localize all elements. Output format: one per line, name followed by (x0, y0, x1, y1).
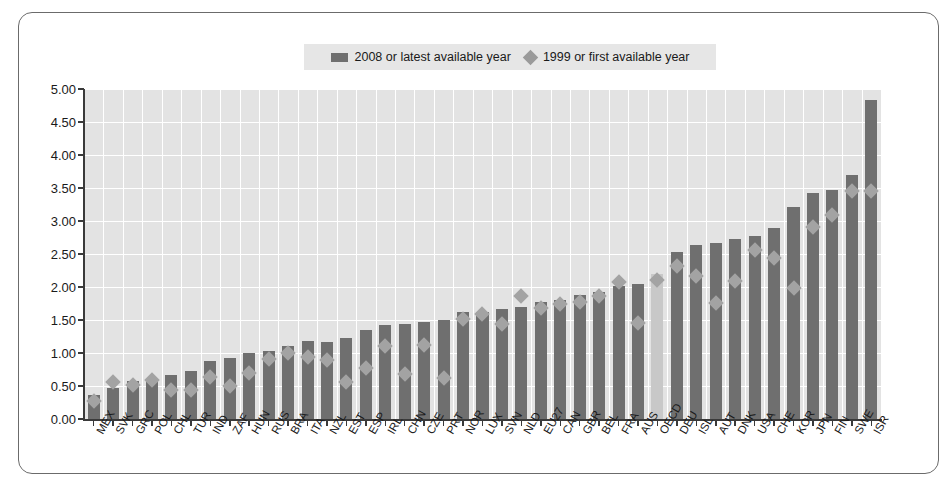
bar-can[interactable] (554, 300, 566, 419)
y-axis-tick-mark (78, 286, 84, 288)
y-axis-tick-label: 3.50 (30, 181, 76, 196)
bar-aut[interactable] (710, 243, 722, 419)
x-axis-tick-mark (676, 420, 678, 426)
x-axis-tick-mark (598, 420, 600, 426)
bar-hun[interactable] (243, 353, 255, 419)
bar-swatch-icon (331, 53, 348, 62)
bar-kor[interactable] (787, 207, 799, 419)
legend-label-diamonds: 1999 or first available year (543, 50, 690, 64)
bar-group[interactable] (224, 89, 236, 419)
x-axis-tick-mark (423, 420, 425, 426)
x-axis-tick-mark (210, 420, 212, 426)
bar-nor[interactable] (457, 312, 469, 419)
chart-legend: 2008 or latest available year 1999 or fi… (304, 44, 716, 70)
x-axis-tick-mark (482, 420, 484, 426)
bar-group[interactable] (865, 89, 877, 419)
y-axis-tick-label: 4.00 (30, 148, 76, 163)
bar-group[interactable] (321, 89, 333, 419)
bar-group[interactable] (826, 89, 838, 419)
bar-group[interactable] (768, 89, 780, 419)
bar-group[interactable] (496, 89, 508, 419)
x-axis-tick-mark (871, 420, 873, 426)
bar-group[interactable] (807, 89, 819, 419)
bar-group[interactable] (515, 89, 527, 419)
bar-group[interactable] (302, 89, 314, 419)
bar-oecd[interactable] (651, 274, 663, 419)
x-axis-tick-mark (346, 420, 348, 426)
bar-group[interactable] (146, 89, 158, 419)
bar-bel[interactable] (593, 292, 605, 419)
bar-group[interactable] (593, 89, 605, 419)
bar-group[interactable] (554, 89, 566, 419)
bar-fra[interactable] (613, 286, 625, 419)
x-axis-tick-mark (248, 420, 250, 426)
bar-swe[interactable] (846, 175, 858, 419)
bar-aus[interactable] (632, 284, 644, 419)
x-axis-tick-mark (579, 420, 581, 426)
y-axis-tick-label: 3.00 (30, 214, 76, 229)
bar-group[interactable] (399, 89, 411, 419)
bar-group[interactable] (340, 89, 352, 419)
bar-group[interactable] (457, 89, 469, 419)
y-axis-tick-mark (78, 220, 84, 222)
y-axis-tick-mark (78, 253, 84, 255)
y-axis-tick-label: 5.00 (30, 82, 76, 97)
y-axis-tick-label: 2.00 (30, 280, 76, 295)
bar-eu27[interactable] (535, 302, 547, 419)
bar-group[interactable] (263, 89, 275, 419)
bar-group[interactable] (185, 89, 197, 419)
diamond-marker-nld[interactable] (514, 288, 530, 304)
bar-group[interactable] (690, 89, 702, 419)
bar-group[interactable] (613, 89, 625, 419)
bar-group[interactable] (418, 89, 430, 419)
x-axis-tick-mark (171, 420, 173, 426)
bar-group[interactable] (671, 89, 683, 419)
y-axis-tick-mark (78, 385, 84, 387)
bar-isr[interactable] (865, 100, 877, 419)
x-axis-tick-mark (618, 420, 620, 426)
bar-group[interactable] (651, 89, 663, 419)
bar-group[interactable] (476, 89, 488, 419)
y-axis-tick-mark (78, 319, 84, 321)
x-axis-tick-mark (793, 420, 795, 426)
bar-group[interactable] (88, 89, 100, 419)
x-axis-tick-mark (229, 420, 231, 426)
x-axis-tick-mark (151, 420, 153, 426)
bar-group[interactable] (749, 89, 761, 419)
bar-group[interactable] (165, 89, 177, 419)
bar-group[interactable] (107, 89, 119, 419)
y-axis-tick-label: 0.00 (30, 412, 76, 427)
bar-deu[interactable] (671, 252, 683, 419)
bar-group[interactable] (535, 89, 547, 419)
bar-group[interactable] (204, 89, 216, 419)
bar-group[interactable] (438, 89, 450, 419)
x-axis-tick-mark (307, 420, 309, 426)
bar-group[interactable] (282, 89, 294, 419)
bar-gbr[interactable] (574, 295, 586, 419)
bar-nld[interactable] (515, 307, 527, 419)
legend-item-bars: 2008 or latest available year (331, 50, 511, 64)
bar-group[interactable] (729, 89, 741, 419)
bar-group[interactable] (243, 89, 255, 419)
bar-group[interactable] (710, 89, 722, 419)
bar-group[interactable] (360, 89, 372, 419)
bar-group[interactable] (632, 89, 644, 419)
bar-group[interactable] (379, 89, 391, 419)
x-axis-tick-mark (462, 420, 464, 426)
bar-group[interactable] (574, 89, 586, 419)
legend-label-bars: 2008 or latest available year (355, 50, 511, 64)
x-axis-tick-mark (832, 420, 834, 426)
legend-item-diamonds: 1999 or first available year (525, 50, 690, 64)
y-axis-tick-label: 2.50 (30, 247, 76, 262)
bar-group[interactable] (127, 89, 139, 419)
x-axis-tick-mark (404, 420, 406, 426)
bar-fin[interactable] (826, 190, 838, 419)
bar-group[interactable] (846, 89, 858, 419)
x-axis-tick-mark (385, 420, 387, 426)
bar-usa[interactable] (749, 236, 761, 419)
bar-dnk[interactable] (729, 239, 741, 419)
bar-group[interactable] (787, 89, 799, 419)
x-axis-tick-mark (112, 420, 114, 426)
plot-area (84, 89, 881, 419)
bar-lux[interactable] (476, 312, 488, 419)
